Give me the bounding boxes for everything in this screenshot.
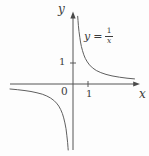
y-tick-label: 1 — [59, 57, 65, 67]
equation-label: y = 1 x — [84, 27, 113, 45]
origin-label: 0 — [61, 86, 68, 97]
equation-numerator: 1 — [107, 27, 112, 36]
equation-lhs: y — [84, 30, 90, 43]
x-tick-label: 1 — [86, 89, 92, 99]
y-axis-arrow-icon — [70, 12, 75, 19]
equation-fraction: 1 x — [105, 27, 112, 45]
equation-equals: = — [93, 30, 102, 43]
plot-canvas — [0, 0, 149, 156]
x-axis-label: x — [139, 88, 146, 100]
curve-negative-branch — [10, 89, 68, 150]
equation-denominator: x — [105, 36, 112, 46]
y-axis-label: y — [58, 3, 65, 15]
x-axis-arrow-icon — [133, 81, 140, 86]
hyperbola-figure: y x 0 1 1 y = 1 x — [0, 0, 149, 156]
